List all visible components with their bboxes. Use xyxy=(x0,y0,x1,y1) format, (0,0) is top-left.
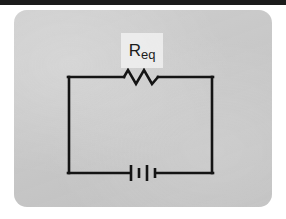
resistor-label-subscript: eq xyxy=(141,48,155,61)
figure-page: Req xyxy=(0,0,286,219)
resistor-label-main: R xyxy=(129,42,141,59)
resistor-symbol xyxy=(124,70,158,84)
resistor-label: Req xyxy=(121,33,163,68)
